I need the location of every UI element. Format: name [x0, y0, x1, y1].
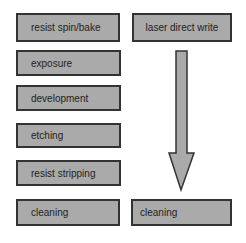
down-arrow-icon [0, 0, 246, 243]
process-flow-diagram: resist spin/bake exposure development et… [0, 0, 246, 243]
